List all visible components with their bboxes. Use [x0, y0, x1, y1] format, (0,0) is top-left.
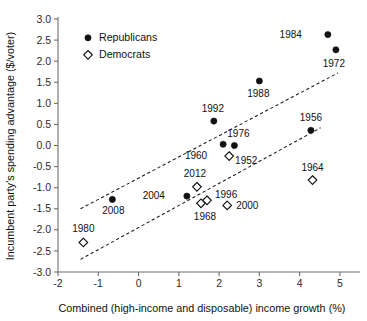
y-tick-label: 2.0 [36, 55, 51, 67]
point-label-1988: 1988 [247, 88, 270, 99]
y-tick-label: 2.5 [36, 34, 51, 46]
point-label-1964: 1964 [301, 162, 324, 173]
republican-point-marker [308, 127, 314, 133]
chart-figure: 3.02.52.01.51.00.50.0-0.5-1.0-1.5-2.0-2.… [0, 0, 367, 321]
y-tick-label: -1.0 [33, 181, 51, 193]
x-tick-label: 5 [337, 277, 343, 289]
scatter-plot: 3.02.52.01.51.00.50.0-0.5-1.0-1.5-2.0-2.… [0, 0, 367, 321]
point-label-1992: 1992 [202, 103, 225, 114]
republican-point-marker [325, 32, 331, 38]
y-tick-label: -0.5 [33, 160, 51, 172]
democrat-point-marker [225, 152, 234, 161]
y-tick-label: 1.5 [36, 76, 51, 88]
x-tick-label: 0 [136, 277, 142, 289]
y-tick-label: -1.5 [33, 202, 51, 214]
republican-point-marker [231, 142, 237, 148]
tick-marks [54, 19, 340, 276]
democrat-point-marker [223, 201, 232, 210]
y-axis-title: Incumbent party's spending advantage ($/… [4, 32, 16, 260]
democrat-point-marker [193, 183, 202, 192]
republican-point-marker [220, 141, 226, 147]
lower-trendline [81, 128, 321, 260]
republican-point-marker [109, 196, 115, 202]
trendlines [81, 73, 338, 259]
republican-point-marker [211, 118, 217, 124]
y-tick-label: -2.5 [33, 245, 51, 257]
x-axis-title: Combined (high-income and disposable) in… [59, 302, 346, 314]
point-label-2004: 2004 [143, 190, 166, 201]
y-tick-label: 0.0 [36, 139, 51, 151]
x-axis-tick-labels: -2-1012345 [53, 277, 343, 289]
x-tick-label: -2 [53, 277, 62, 289]
x-tick-label: -1 [94, 277, 103, 289]
y-axis-tick-labels: 3.02.52.01.51.00.50.0-0.5-1.0-1.5-2.0-2.… [33, 13, 51, 278]
republican-point-marker [333, 47, 339, 53]
point-label-1956: 1956 [300, 112, 323, 123]
point-label-1996: 1996 [215, 189, 238, 200]
point-label-1984: 1984 [280, 29, 303, 40]
point-label-1952: 1952 [235, 155, 258, 166]
y-tick-label: -2.0 [33, 223, 51, 235]
x-tick-label: 3 [256, 277, 262, 289]
republican-point-marker [184, 193, 190, 199]
x-tick-label: 1 [176, 277, 182, 289]
x-tick-label: 4 [297, 277, 303, 289]
democrat-point-marker [308, 176, 317, 185]
y-tick-label: -3.0 [33, 266, 51, 278]
point-label-1968: 1968 [194, 211, 217, 222]
point-label-2012: 2012 [184, 168, 207, 179]
democrat-point-marker [79, 238, 88, 247]
legend-label-republicans: Republicans [99, 31, 157, 43]
legend: RepublicansDemocrats [84, 31, 158, 60]
y-tick-label: 1.0 [36, 97, 51, 109]
point-label-2008: 2008 [102, 205, 125, 216]
legend-marker-democrats [84, 51, 93, 60]
point-label-2000: 2000 [236, 200, 259, 211]
point-label-1976: 1976 [227, 128, 250, 139]
legend-label-democrats: Democrats [99, 48, 150, 60]
republican-point-marker [256, 78, 262, 84]
legend-marker-republicans [85, 35, 91, 41]
y-tick-label: 0.5 [36, 118, 51, 130]
point-label-1980: 1980 [72, 223, 95, 234]
y-tick-label: 3.0 [36, 13, 51, 25]
x-tick-label: 2 [216, 277, 222, 289]
point-label-1972: 1972 [323, 58, 346, 69]
point-label-1960: 1960 [185, 150, 208, 161]
